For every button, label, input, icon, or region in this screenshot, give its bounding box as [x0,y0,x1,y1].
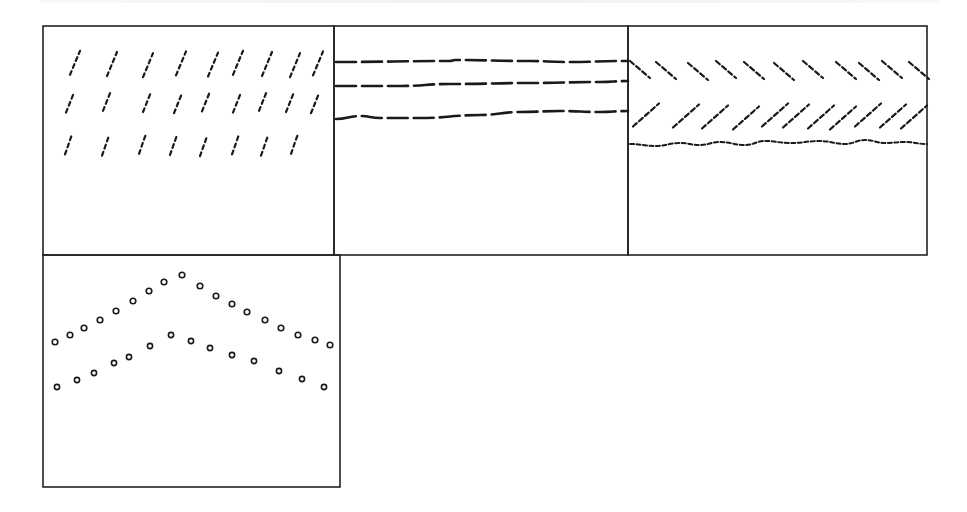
slash-stroke [808,106,834,129]
panel-a-slanted-strokes [65,51,323,156]
slanted-stroke [174,93,182,113]
slanted-stroke [65,134,72,154]
slanted-stroke [291,134,298,154]
panel-frame-d [43,255,340,487]
circle-marker-upper [130,298,136,304]
backslash-stroke [774,63,794,80]
backslash-stroke [744,62,764,79]
circle-marker-upper [52,339,58,345]
circle-marker-lower [147,343,152,348]
slanted-stroke [261,136,268,156]
slanted-stroke [286,92,294,112]
backslash-stroke [716,61,736,78]
circle-marker-upper [229,301,235,307]
backslash-stroke [688,63,708,80]
slanted-stroke [66,93,74,113]
circle-marker-upper [81,325,87,331]
circle-marker-upper [312,337,318,343]
slanted-stroke [233,51,243,75]
slanted-stroke [208,53,218,77]
panel-frame-a [43,26,334,255]
dashed-line-1 [336,60,628,62]
circle-marker-lower [188,338,193,343]
panel-b-horizontal-dashed-lines [336,60,628,119]
slanted-stroke [170,135,177,155]
circle-marker-upper [213,293,219,299]
circle-marker-upper [295,332,301,338]
circle-marker-lower [168,332,173,337]
slanted-stroke [290,53,300,77]
dashed-line-2 [336,81,628,86]
slanted-stroke [143,53,153,77]
panel-d-circle-chevrons [52,272,333,389]
circle-marker-upper [197,283,203,289]
circle-marker-lower [299,376,304,381]
circle-marker-upper [161,279,167,285]
circle-marker-upper [327,342,333,348]
circle-marker-lower [126,354,131,359]
slash-stroke [783,105,809,128]
circle-marker-upper [113,308,119,314]
backslash-stroke [836,62,856,79]
circle-marker-upper [97,317,103,323]
slanted-stroke [139,134,146,154]
circle-marker-lower [54,384,59,389]
circle-marker-lower [74,377,79,382]
circle-marker-lower [321,384,326,389]
slash-stroke [633,104,659,127]
slash-stroke [880,105,906,128]
slanted-stroke [70,51,80,75]
circle-marker-lower [91,370,96,375]
circle-marker-lower [207,345,212,350]
circle-marker-upper [278,325,284,331]
circle-marker-upper [179,272,185,278]
slanted-stroke [311,93,319,113]
slanted-stroke [143,92,151,112]
slanted-stroke [232,134,239,154]
backslash-stroke [803,61,823,78]
backslash-stroke [859,63,879,80]
circle-marker-lower [251,358,256,363]
slash-stroke [702,106,728,129]
slanted-stroke [102,136,109,156]
slash-stroke [762,104,788,127]
slash-stroke [733,107,759,130]
slanted-stroke [262,52,272,76]
slanted-stroke [313,51,323,75]
circle-marker-lower [229,352,234,357]
circle-marker-upper [244,309,250,315]
circle-marker-upper [146,288,152,294]
slanted-stroke [103,91,111,111]
backslash-stroke [656,62,676,79]
slanted-stroke [200,136,207,156]
circle-marker-lower [111,360,116,365]
backslash-stroke [909,62,929,79]
panel-c-mixed-strokes [630,61,929,146]
wavy-dotted-line [630,140,927,146]
backslash-stroke [882,61,902,78]
backslash-stroke [630,61,650,78]
slanted-stroke [233,93,241,113]
slash-stroke [830,107,856,130]
slanted-stroke [107,52,117,76]
slanted-stroke [259,91,267,111]
slash-stroke [855,104,881,127]
slash-stroke [901,106,927,129]
slash-stroke [673,105,699,128]
dashed-line-3 [336,111,628,119]
circle-marker-upper [262,317,268,323]
circle-marker-upper [67,332,73,338]
figure-canvas [0,0,967,512]
circle-marker-lower [276,368,281,373]
slanted-stroke [176,51,186,75]
panel-frames [43,26,927,487]
slanted-stroke [202,91,210,111]
